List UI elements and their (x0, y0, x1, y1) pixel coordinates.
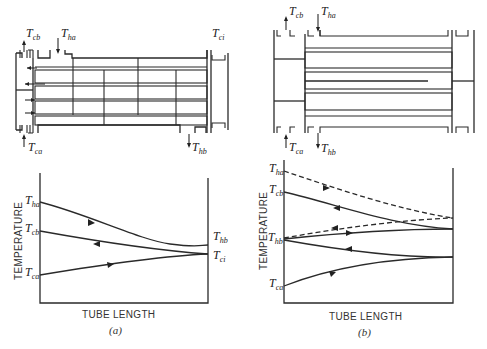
left-label-tha-a: Tha (25, 193, 40, 209)
left-label-tca-b: Tca (269, 276, 283, 292)
label-thb-b: Thb (321, 141, 336, 157)
shell-bottom (38, 125, 206, 133)
label-tha-b: Tha (321, 4, 336, 20)
curve-hot-pass2-b (284, 218, 453, 238)
label-tha-a: Tha (61, 26, 76, 42)
right-label-thb-a: Thb (213, 229, 228, 245)
label-tcb-a: Tcb (26, 26, 40, 42)
label-thb-a: Thb (192, 140, 207, 156)
baffles-a (73, 58, 176, 125)
curve-cold-pass4-b (284, 192, 453, 229)
curve-cold-pass2-a (40, 231, 208, 254)
panel-b-schematic: Tcb Tha Tca Thb (274, 4, 474, 157)
left-label-tca-a: Tca (25, 265, 39, 281)
label-tci-a: Tci (212, 26, 224, 42)
panel-a-schematic: Tcb Tha Tci Tca Thb (16, 26, 228, 156)
left-label-tcb-b: Tcb (269, 182, 283, 198)
shell-top-b (320, 30, 448, 36)
xlabel-a: TUBE LENGTH (82, 309, 155, 320)
curve-hot-a (40, 202, 208, 246)
panel-b-chart: TEMPERATURE TUBE LENGTH (b) Tha Tcb Thb … (258, 160, 453, 339)
label-tca-b: Tca (289, 140, 303, 156)
shell-top (38, 50, 207, 58)
tube-bundle-b (305, 52, 452, 110)
curve-cold-pass1-b (284, 257, 453, 286)
chart-a-axes (40, 173, 208, 303)
ylabel-a: TEMPERATURE (13, 202, 24, 280)
caption-b: (b) (358, 326, 371, 339)
caption-a: (a) (109, 324, 122, 337)
tube-bundle-a (35, 67, 207, 125)
left-label-tcb-a: Tcb (25, 221, 39, 237)
label-tcb-b: Tcb (289, 4, 303, 20)
shell-bottom-b (308, 127, 448, 133)
panel-a-chart: TEMPERATURE TUBE LENGTH (a) Tha Tcb Tca … (13, 173, 228, 337)
curve-hot-pass1-b (284, 171, 453, 218)
left-label-tha-b: Tha (269, 161, 284, 177)
label-tca-a: Tca (28, 140, 42, 156)
curve-cold-pass1-a (40, 254, 208, 275)
right-label-tci-a: Tci (213, 248, 225, 264)
xlabel-b: TUBE LENGTH (329, 311, 402, 322)
curve-cold-pass2-b (284, 240, 453, 257)
figure-canvas: Tcb Tha Tci Tca Thb (0, 0, 487, 349)
left-label-thb-b: Thb (268, 230, 283, 246)
